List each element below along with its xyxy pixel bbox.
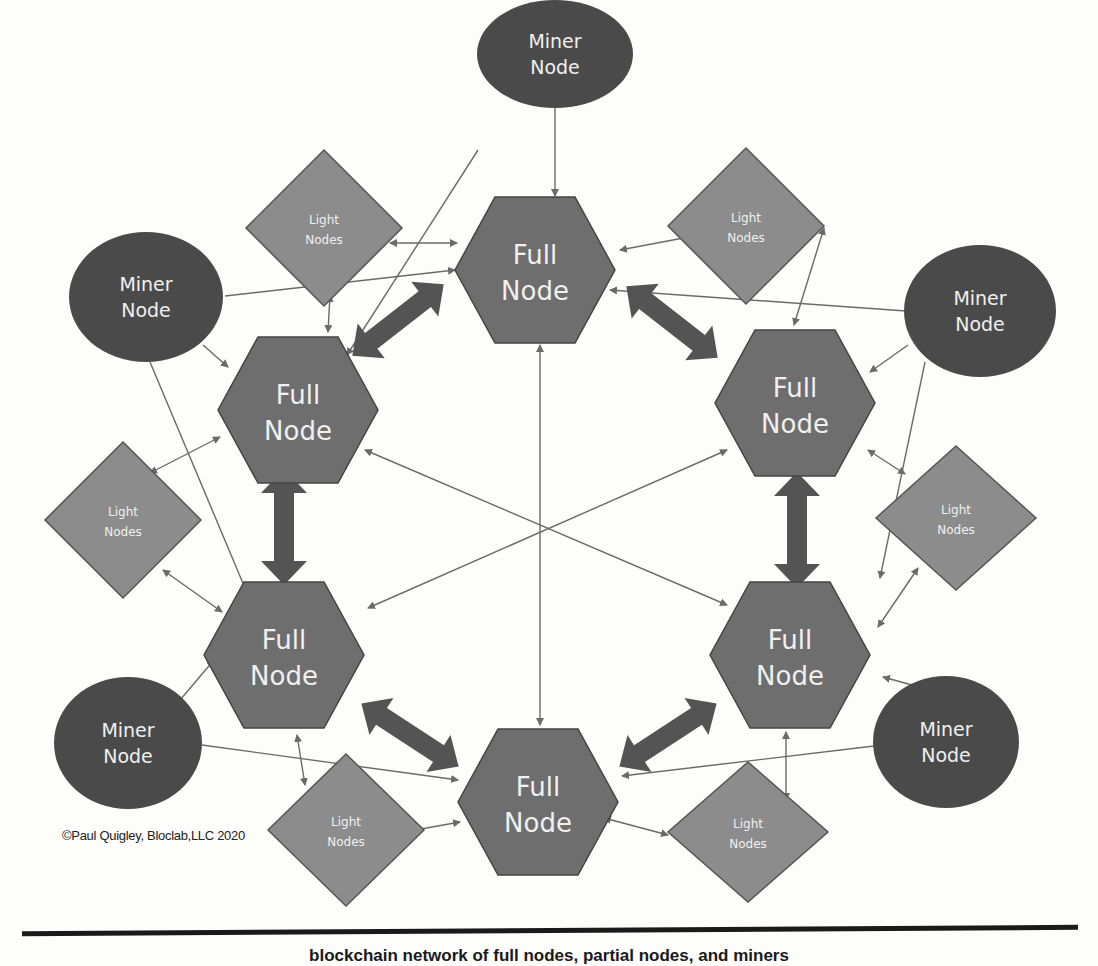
miner-node-bottom-right: Miner Node xyxy=(873,676,1019,808)
svg-text:Light: Light xyxy=(108,505,138,519)
svg-text:Full: Full xyxy=(773,373,817,403)
light-node-top-left: Light Nodes xyxy=(246,150,402,306)
svg-text:Miner: Miner xyxy=(953,287,1006,309)
big-arrow-left xyxy=(261,469,307,585)
svg-text:Node: Node xyxy=(504,808,572,838)
big-arrow-bottom-left xyxy=(349,685,470,785)
svg-text:Full: Full xyxy=(276,380,320,410)
big-arrow-right xyxy=(774,472,820,588)
miner-node-top-right: Miner Node xyxy=(904,245,1056,377)
miner-node-top: Miner Node xyxy=(477,0,633,108)
miner-node-top-left: Miner Node xyxy=(69,232,223,362)
full-node-bottom-right: Full Node xyxy=(710,582,870,728)
svg-text:Nodes: Nodes xyxy=(305,233,343,247)
copyright-notice: ©Paul Quigley, Bloclab,LLC 2020 xyxy=(62,828,245,843)
full-node-top: Full Node xyxy=(455,197,615,343)
full-node-bottom-left: Full Node xyxy=(204,582,364,728)
figure-caption: blockchain network of full nodes, partia… xyxy=(0,946,1098,966)
svg-text:Nodes: Nodes xyxy=(104,525,142,539)
svg-text:Node: Node xyxy=(121,299,171,321)
svg-text:Light: Light xyxy=(941,503,971,517)
svg-text:Light: Light xyxy=(733,817,763,831)
light-node-right: Light Nodes xyxy=(876,446,1036,590)
svg-text:Full: Full xyxy=(262,625,306,655)
svg-text:Nodes: Nodes xyxy=(727,231,765,245)
svg-text:Light: Light xyxy=(731,211,761,225)
miner-node-bottom-left: Miner Node xyxy=(54,677,202,809)
svg-text:Node: Node xyxy=(250,661,318,691)
svg-text:Full: Full xyxy=(516,772,560,802)
big-arrow-top-left xyxy=(339,267,457,373)
svg-text:Full: Full xyxy=(513,240,557,270)
svg-text:Miner: Miner xyxy=(528,30,581,52)
big-arrow-top-right xyxy=(613,269,731,375)
light-node-top-right: Light Nodes xyxy=(668,148,824,304)
svg-text:Node: Node xyxy=(756,661,824,691)
light-node-bottom-right: Light Nodes xyxy=(668,762,828,902)
svg-text:Full: Full xyxy=(768,625,812,655)
svg-text:Miner: Miner xyxy=(119,273,172,295)
full-node-bottom: Full Node xyxy=(458,729,618,875)
svg-text:Node: Node xyxy=(264,416,332,446)
full-node-top-left: Full Node xyxy=(218,337,378,483)
svg-text:Nodes: Nodes xyxy=(937,523,975,537)
svg-text:Light: Light xyxy=(331,815,361,829)
svg-text:Node: Node xyxy=(501,276,569,306)
light-node-bottom-left: Light Nodes xyxy=(268,754,424,906)
svg-text:Node: Node xyxy=(955,313,1005,335)
svg-text:Nodes: Nodes xyxy=(729,837,767,851)
full-node-top-right: Full Node xyxy=(715,330,875,476)
svg-text:Miner: Miner xyxy=(101,719,154,741)
svg-text:Node: Node xyxy=(921,744,971,766)
svg-text:Miner: Miner xyxy=(919,718,972,740)
svg-text:Light: Light xyxy=(309,213,339,227)
svg-text:Node: Node xyxy=(103,745,153,767)
light-node-left: Light Nodes xyxy=(45,442,201,598)
svg-text:Node: Node xyxy=(530,56,580,78)
svg-text:Nodes: Nodes xyxy=(327,835,365,849)
svg-text:Node: Node xyxy=(761,409,829,439)
